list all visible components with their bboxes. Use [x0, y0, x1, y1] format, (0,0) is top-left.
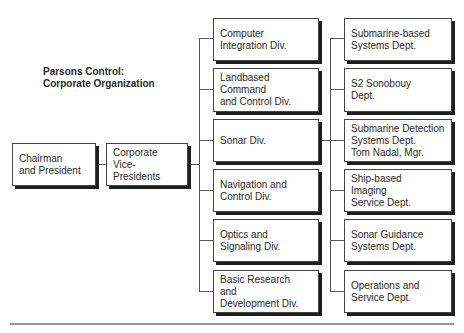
division-box: Computer Integration Div.	[213, 18, 319, 61]
connector-div-3	[199, 140, 213, 141]
bottom-divider	[10, 323, 454, 325]
vice-presidents-box: Corporate Vice-Presidents	[106, 143, 188, 186]
division-box: Basic Research and Development Div.	[213, 270, 319, 313]
department-box: Sonar Guidance Systems Dept.	[344, 219, 452, 262]
connector-dept-3	[330, 140, 344, 141]
department-label: Submarine-based Systems Dept.	[351, 28, 430, 52]
division-label: Computer Integration Div.	[220, 28, 287, 52]
department-box: S2 Sonobouy Dept.	[344, 68, 452, 112]
chairman-box: Chairman and President	[12, 143, 96, 186]
division-box: Navigation and Control Div.	[213, 169, 319, 212]
division-box: Sonar Div.	[213, 119, 319, 162]
connector-sonar-depts	[319, 140, 330, 141]
division-label: Landbased Command and Control Div.	[220, 72, 291, 108]
department-box: Operations and Service Dept.	[344, 270, 452, 313]
connector-dept-2	[330, 89, 344, 90]
department-box: Submarine Detection Systems Dept. Tom Na…	[344, 119, 452, 162]
connector-dept-4	[330, 190, 344, 191]
division-label: Navigation and Control Div.	[220, 179, 287, 203]
connector-dept-5	[330, 240, 344, 241]
connector-div-1	[199, 38, 213, 39]
connector-dept-1	[330, 38, 344, 39]
department-label: Ship-based Imaging Service Dept.	[351, 173, 411, 209]
department-box: Submarine-based Systems Dept.	[344, 18, 452, 61]
title-line-2: Corporate Organization	[43, 78, 155, 90]
division-label: Basic Research and Development Div.	[220, 274, 298, 310]
chart-title: Parsons Control: Corporate Organization	[43, 66, 155, 90]
chairman-label: Chairman and President	[19, 153, 81, 177]
division-box: Landbased Command and Control Div.	[213, 68, 319, 112]
division-label: Optics and Signaling Div.	[220, 229, 280, 253]
connector-div-6	[199, 291, 213, 292]
connector-dept-6	[330, 291, 344, 292]
division-label: Sonar Div.	[220, 135, 266, 147]
department-label: Sonar Guidance Systems Dept.	[351, 229, 423, 253]
departments-vertical-bus	[330, 38, 331, 291]
divisions-vertical-bus	[199, 38, 200, 291]
connector-chairman-vp	[96, 164, 106, 165]
connector-vp-trunk	[188, 164, 199, 165]
department-box: Ship-based Imaging Service Dept.	[344, 169, 452, 212]
department-label: Operations and Service Dept.	[351, 280, 419, 304]
title-line-1: Parsons Control:	[43, 66, 155, 78]
connector-div-2	[199, 89, 213, 90]
connector-div-4	[199, 190, 213, 191]
vice-presidents-label: Corporate Vice-Presidents	[113, 147, 181, 183]
connector-div-5	[199, 240, 213, 241]
department-label: S2 Sonobouy Dept.	[351, 78, 411, 102]
department-label: Submarine Detection Systems Dept. Tom Na…	[351, 123, 444, 159]
division-box: Optics and Signaling Div.	[213, 219, 319, 262]
